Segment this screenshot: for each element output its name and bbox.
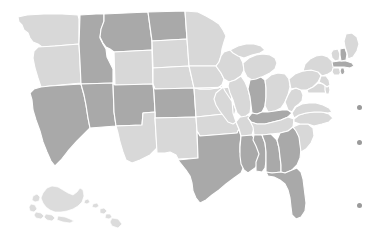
state-CA[interactable] bbox=[30, 84, 90, 166]
state-WY[interactable] bbox=[114, 50, 153, 85]
state-CO[interactable] bbox=[153, 84, 196, 118]
state-RI[interactable] bbox=[340, 68, 345, 75]
state-FL[interactable] bbox=[266, 168, 306, 219]
inset-hawaii[interactable] bbox=[84, 199, 122, 228]
us-map-svg bbox=[0, 0, 369, 235]
state-MT[interactable] bbox=[100, 12, 152, 52]
state-VT[interactable] bbox=[331, 49, 340, 61]
us-choropleth-map bbox=[0, 0, 369, 235]
state-NM[interactable] bbox=[155, 117, 198, 159]
state-OR[interactable] bbox=[33, 44, 81, 87]
state-ND[interactable] bbox=[148, 11, 187, 41]
inset-alaska[interactable] bbox=[29, 186, 84, 223]
state-SD[interactable] bbox=[152, 39, 189, 68]
state-MA[interactable] bbox=[332, 61, 354, 68]
state-NE[interactable] bbox=[153, 66, 194, 89]
state-WA[interactable] bbox=[18, 14, 79, 47]
